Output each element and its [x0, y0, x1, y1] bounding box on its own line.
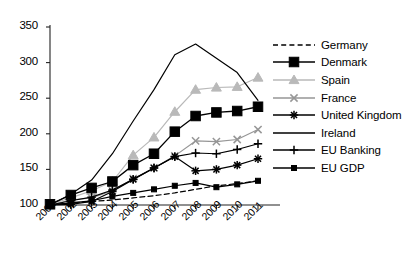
legend-item-ireland[interactable]: Ireland: [272, 124, 407, 142]
series-line: [50, 44, 258, 205]
data-point-marker: [253, 102, 263, 112]
square-marker: [235, 182, 240, 187]
y-axis-tick-label: 150: [8, 161, 38, 173]
legend-item-denmark[interactable]: Denmark: [272, 54, 407, 72]
square-marker: [193, 180, 198, 185]
square-marker: [191, 111, 201, 121]
data-point-marker: [108, 187, 116, 195]
data-point-marker: [232, 106, 242, 116]
data-point-marker: [233, 145, 241, 153]
square-marker: [108, 177, 118, 187]
data-point-marker: [235, 182, 240, 187]
legend-item-eu-banking[interactable]: EU Banking: [272, 142, 407, 160]
square-marker: [232, 106, 242, 116]
legend-item-united-kingdom[interactable]: United Kingdom: [272, 106, 407, 124]
legend-item-germany[interactable]: Germany: [272, 36, 407, 54]
data-point-marker: [212, 150, 220, 158]
legend-marker-icon: [272, 161, 316, 175]
legend-item-spain[interactable]: Spain: [272, 71, 407, 89]
square-marker: [172, 183, 177, 188]
legend-label: Ireland: [321, 127, 355, 139]
data-point-marker: [290, 146, 298, 154]
data-point-marker: [233, 161, 241, 169]
series-ireland: [50, 44, 258, 205]
legend-label: Germany: [321, 39, 368, 51]
legend-marker-icon: [272, 143, 316, 157]
data-point-marker: [149, 149, 159, 159]
data-point-marker: [87, 183, 97, 193]
data-point-marker: [254, 140, 262, 148]
square-marker: [152, 187, 157, 192]
triangle-marker: [253, 73, 263, 82]
square-marker: [128, 160, 138, 170]
square-marker: [87, 183, 97, 193]
triangle-marker: [232, 82, 242, 91]
legend-marker-icon: [272, 108, 316, 122]
legend-item-france[interactable]: France: [272, 89, 407, 107]
data-point-marker: [170, 127, 180, 137]
data-point-marker: [131, 190, 136, 195]
y-axis-tick-label: 100: [8, 197, 38, 209]
data-point-marker: [212, 165, 220, 173]
legend-label: France: [321, 92, 356, 104]
series-denmark: [45, 102, 263, 209]
y-axis-tick-label: 250: [8, 90, 38, 102]
square-marker: [214, 185, 219, 190]
data-point-marker: [290, 111, 298, 119]
data-point-marker: [253, 73, 263, 82]
legend-marker-icon: [272, 55, 316, 69]
data-point-marker: [214, 185, 219, 190]
square-marker: [149, 149, 159, 159]
data-point-marker: [256, 178, 261, 183]
data-point-marker: [191, 149, 199, 157]
legend-marker-icon: [272, 38, 316, 52]
data-point-marker: [232, 82, 242, 91]
data-point-marker: [191, 167, 199, 175]
legend-item-eu-gdp[interactable]: EU GDP: [272, 159, 407, 177]
chart-figure: 350300250200150100 200120022003200420052…: [0, 0, 409, 261]
data-point-marker: [172, 183, 177, 188]
square-marker: [212, 108, 222, 118]
y-axis-tick-label: 200: [8, 126, 38, 138]
square-marker: [253, 102, 263, 112]
data-point-marker: [289, 58, 299, 68]
data-point-marker: [108, 177, 118, 187]
legend-marker-icon: [272, 91, 316, 105]
data-point-marker: [212, 108, 222, 118]
data-point-marker: [129, 175, 137, 183]
data-point-marker: [193, 180, 198, 185]
legend-marker-icon: [272, 126, 316, 140]
square-marker: [170, 127, 180, 137]
legend-label: United Kingdom: [321, 109, 401, 121]
data-point-marker: [171, 152, 179, 160]
square-marker: [256, 178, 261, 183]
square-marker: [131, 190, 136, 195]
data-point-marker: [254, 155, 262, 163]
square-marker: [292, 165, 297, 170]
data-point-marker: [150, 164, 158, 172]
data-point-marker: [128, 160, 138, 170]
data-point-marker: [191, 111, 201, 121]
legend-label: Spain: [321, 74, 350, 86]
square-marker: [289, 58, 299, 68]
legend-marker-icon: [272, 73, 316, 87]
data-point-marker: [292, 165, 297, 170]
legend-label: EU Banking: [321, 144, 381, 156]
legend-label: Denmark: [321, 56, 367, 68]
legend-label: EU GDP: [321, 162, 365, 174]
data-point-marker: [152, 187, 157, 192]
y-axis-tick-label: 300: [8, 55, 38, 67]
data-point-marker: [254, 126, 261, 133]
chart-legend: GermanyDenmarkSpainFranceUnited KingdomI…: [272, 36, 407, 177]
y-axis-tick-label: 350: [8, 19, 38, 31]
